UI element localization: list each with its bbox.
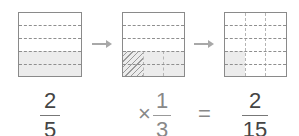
fraction-one-third: 1 3 [152, 90, 172, 136]
row-divider [123, 51, 184, 52]
row-divider [19, 38, 81, 39]
fraction-bar [40, 115, 60, 116]
denominator: 5 [38, 119, 62, 136]
row-divider [123, 64, 184, 65]
column-divider [245, 13, 246, 76]
times-symbol: × [138, 103, 151, 125]
fraction-model-two-fifteenths [224, 12, 287, 77]
row-divider [123, 38, 184, 39]
fraction-bar [153, 115, 171, 116]
row-divider [225, 38, 286, 39]
arrow-right-icon [194, 43, 212, 45]
fraction-model-two-fifths [18, 12, 82, 77]
fraction-model-one-third-of-two-fifths [122, 12, 185, 77]
arrow-right-icon [92, 43, 110, 45]
numerator: 2 [240, 90, 270, 112]
row-divider [19, 51, 81, 52]
fraction-bar [242, 115, 268, 116]
denominator: 15 [240, 119, 270, 136]
numerator: 2 [38, 90, 62, 112]
fraction-two-fifths: 2 5 [38, 90, 62, 136]
column-divider [265, 13, 266, 76]
numerator: 1 [152, 90, 172, 112]
row-divider [225, 51, 286, 52]
equals-symbol: = [198, 103, 211, 125]
row-divider [225, 25, 286, 26]
row-divider [123, 25, 184, 26]
row-divider [225, 64, 286, 65]
fraction-two-fifteenths: 2 15 [240, 90, 270, 136]
row-divider [19, 64, 81, 65]
row-divider [19, 25, 81, 26]
denominator: 3 [152, 119, 172, 136]
